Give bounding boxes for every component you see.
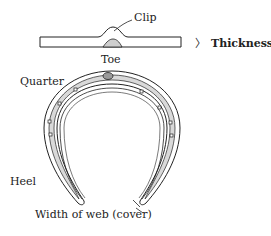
top-view: Toe Quarter Heel Width of web (cover) xyxy=(10,53,180,221)
nail-hole xyxy=(58,102,61,105)
nail-hole xyxy=(140,90,143,93)
clip-label: Clip xyxy=(134,11,157,24)
heel-label: Heel xyxy=(10,175,37,188)
shoe-inner-rim xyxy=(60,88,164,199)
nail-hole xyxy=(49,133,52,136)
toe-clip xyxy=(103,73,113,80)
web-width-label: Width of web (cover) xyxy=(35,208,152,221)
nail-hole xyxy=(48,120,51,123)
side-view: Clip 〉 Thickness xyxy=(40,11,271,50)
shoe-fullering-groove xyxy=(49,75,175,199)
horseshoe-diagram: Clip 〉 Thickness Toe Quarter Heel Width … xyxy=(0,0,271,236)
quarter-label: Quarter xyxy=(20,75,65,88)
nail-hole xyxy=(170,134,173,137)
shoe-inner-rim-2 xyxy=(64,92,160,198)
nail-hole xyxy=(158,106,161,109)
toe-label: Toe xyxy=(101,53,121,66)
nail-hole xyxy=(74,88,77,91)
thickness-bracket: 〉 xyxy=(195,37,206,50)
nail-hole xyxy=(169,121,172,124)
thickness-label: Thickness xyxy=(211,37,271,50)
